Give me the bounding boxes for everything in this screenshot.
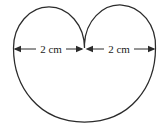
left-arrowhead-icon [14, 46, 22, 53]
right-dimension-group: 2 cm [86, 43, 156, 55]
left-dimension-label: 2 cm [40, 43, 62, 55]
left-dimension-inner-arrowhead-icon [76, 46, 84, 53]
right-arrowhead-icon [148, 46, 156, 53]
right-dimension-inner-arrowhead-icon [86, 46, 94, 53]
heart-outline-path [14, 5, 156, 122]
left-dimension-group: 2 cm [14, 43, 84, 55]
geometry-figure: 2 cm 2 cm [0, 0, 168, 132]
heart-diagram-svg: 2 cm 2 cm [0, 0, 168, 132]
right-dimension-label: 2 cm [108, 43, 130, 55]
